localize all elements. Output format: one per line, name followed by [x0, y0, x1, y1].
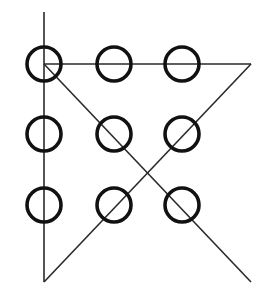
nine-dot-diagram: [0, 0, 269, 299]
